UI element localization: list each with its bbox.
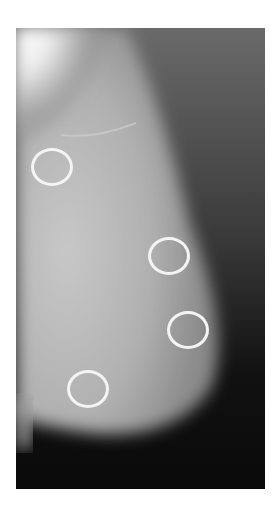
roi-circle-1: [31, 148, 73, 186]
roi-circle-4: [67, 370, 109, 408]
roi-circle-2: [148, 237, 190, 275]
mammogram-rendering: [16, 28, 265, 489]
mammogram-image: [16, 28, 265, 489]
roi-circle-3: [167, 311, 209, 349]
